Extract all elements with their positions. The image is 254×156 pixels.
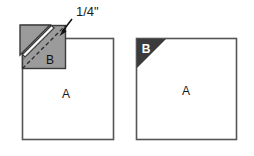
- piece-a-label-left: A: [62, 87, 70, 101]
- piece-a-label-right: A: [182, 84, 190, 98]
- piece-b-label-left: B: [46, 53, 54, 67]
- right-panel: A B: [137, 39, 237, 140]
- piece-b-label-right: B: [142, 42, 151, 56]
- corner-fold-diagram: A B A B 1/4": [0, 0, 254, 156]
- seam-allowance-label: 1/4": [76, 4, 99, 19]
- diagram-canvas: A B A B 1/4": [0, 0, 254, 156]
